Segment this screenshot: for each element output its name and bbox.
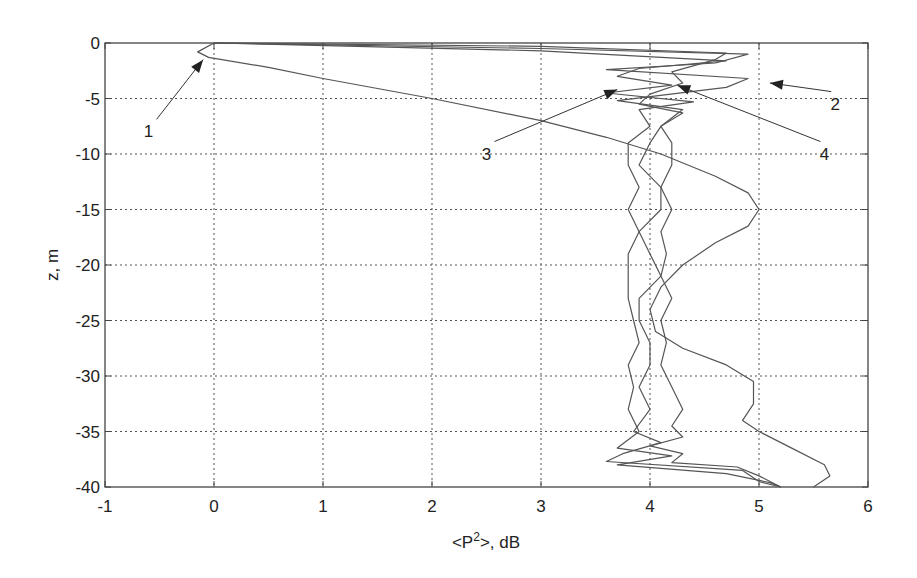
annotation-label-4: 4 [820, 145, 829, 164]
annotation-label-2: 2 [831, 95, 840, 114]
y-tick-label: -5 [85, 90, 100, 109]
annotations: 1234 [144, 60, 840, 164]
y-tick-label: -30 [75, 367, 100, 386]
x-tick-label: 0 [209, 497, 218, 516]
chart: 1234 -10123456 0-5-10-15-20-25-30-35-40 … [0, 0, 917, 578]
x-tick-label: -1 [97, 497, 112, 516]
x-tick-label: 2 [427, 497, 436, 516]
y-tick-labels: 0-5-10-15-20-25-30-35-40 [75, 34, 100, 497]
y-tick-label: -25 [75, 312, 100, 331]
x-tick-label: 4 [645, 497, 654, 516]
y-tick-label: -20 [75, 256, 100, 275]
y-tick-label: 0 [91, 34, 100, 53]
arrowhead-icon [770, 80, 784, 90]
x-tick-labels: -10123456 [97, 497, 872, 516]
arrowhead-icon [191, 60, 203, 73]
y-tick-label: -10 [75, 145, 100, 164]
y-axis-label: z, m [43, 249, 62, 281]
annotation-label-1: 1 [144, 122, 153, 141]
x-tick-label: 5 [754, 497, 763, 516]
x-tick-label: 6 [863, 497, 872, 516]
y-tick-label: -40 [75, 478, 100, 497]
annotation-arrow-4 [677, 85, 820, 141]
annotation-label-3: 3 [482, 145, 491, 164]
y-tick-label: -35 [75, 423, 100, 442]
x-tick-label: 3 [536, 497, 545, 516]
x-tick-label: 1 [318, 497, 327, 516]
y-tick-label: -15 [75, 201, 100, 220]
x-axis-label: <P2>, dB [452, 530, 520, 552]
